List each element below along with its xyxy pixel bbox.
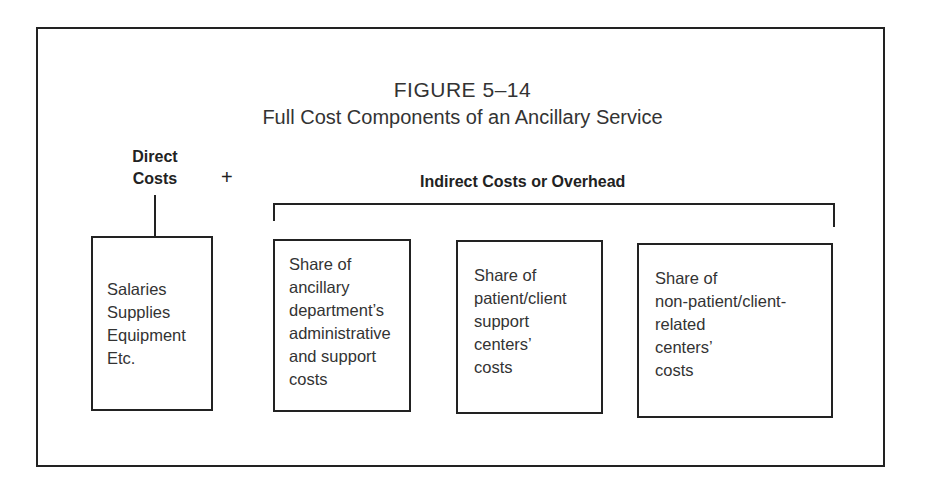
non-patient-centers-text: Share of non-patient/client- related cen…: [655, 267, 786, 382]
box-line: centers’: [474, 333, 567, 356]
box-line: Share of: [474, 264, 567, 287]
figure-title: Full Cost Components of an Ancillary Ser…: [0, 106, 925, 129]
direct-costs-label-line-2: Costs: [122, 168, 188, 190]
box-line: Share of: [655, 267, 786, 290]
direct-costs-label-line-1: Direct: [122, 146, 188, 168]
box-line: costs: [655, 359, 786, 382]
indirect-costs-label: Indirect Costs or Overhead: [420, 173, 625, 191]
box-line: Etc.: [107, 347, 186, 370]
box-line: Supplies: [107, 301, 186, 324]
box-line: costs: [289, 368, 391, 391]
direct-costs-box-text: Salaries Supplies Equipment Etc.: [107, 278, 186, 370]
box-line: department’s: [289, 299, 391, 322]
box-line: Salaries: [107, 278, 186, 301]
non-patient-centers-box: Share of non-patient/client- related cen…: [637, 243, 833, 418]
box-line: non-patient/client-: [655, 290, 786, 313]
direct-costs-box: Salaries Supplies Equipment Etc.: [91, 236, 213, 411]
figure-number: FIGURE 5–14: [0, 78, 925, 102]
ancillary-admin-support-box: Share of ancillary department’s administ…: [273, 239, 411, 412]
box-line: ancillary: [289, 276, 391, 299]
box-line: Equipment: [107, 324, 186, 347]
direct-costs-label: Direct Costs: [122, 146, 188, 190]
box-line: related: [655, 313, 786, 336]
patient-support-centers-box: Share of patient/client support centers’…: [456, 240, 603, 414]
box-line: Share of: [289, 253, 391, 276]
indirect-bracket: [273, 203, 835, 221]
ancillary-admin-support-text: Share of ancillary department’s administ…: [289, 253, 391, 391]
box-line: and support: [289, 345, 391, 368]
indirect-bracket-right-tick: [833, 203, 835, 227]
box-line: costs: [474, 356, 567, 379]
patient-support-centers-text: Share of patient/client support centers’…: [474, 264, 567, 379]
box-line: administrative: [289, 322, 391, 345]
plus-operator: +: [221, 166, 233, 189]
box-line: patient/client: [474, 287, 567, 310]
box-line: support: [474, 310, 567, 333]
box-line: centers’: [655, 336, 786, 359]
direct-connector-line: [154, 195, 156, 237]
